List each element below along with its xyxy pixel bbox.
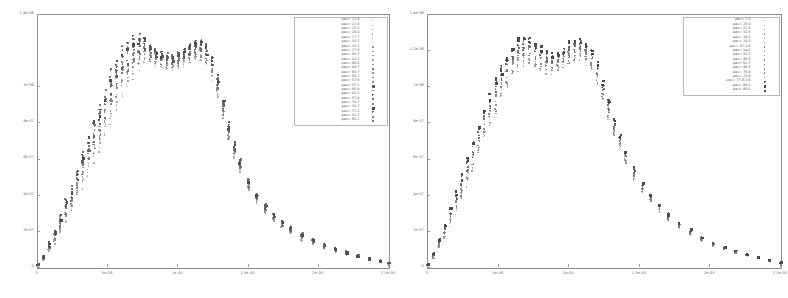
legend-marker-stroke bbox=[472, 156, 473, 158]
data-point bbox=[234, 143, 236, 145]
data-point bbox=[633, 166, 635, 168]
legend-marker-stroke bbox=[490, 122, 491, 124]
data-point bbox=[144, 48, 146, 50]
data-point bbox=[194, 41, 196, 43]
data-point bbox=[127, 52, 129, 54]
data-point bbox=[650, 194, 652, 196]
data-point bbox=[387, 262, 389, 264]
data-point bbox=[116, 87, 117, 88]
legend-marker-stroke bbox=[60, 227, 61, 229]
legend-marker-stroke bbox=[82, 173, 83, 175]
legend-marker-stroke bbox=[650, 197, 651, 199]
legend-marker-glyph bbox=[764, 90, 766, 92]
legend-marker-stroke bbox=[574, 59, 575, 61]
legend-marker-stroke bbox=[70, 203, 71, 205]
data-point bbox=[450, 215, 452, 217]
legend-marker-stroke bbox=[517, 65, 518, 67]
legend-marker-stroke bbox=[155, 61, 156, 63]
data-point bbox=[495, 88, 497, 90]
data-point bbox=[522, 49, 524, 51]
data-point bbox=[433, 252, 435, 254]
data-point bbox=[133, 66, 134, 67]
data-point bbox=[240, 166, 242, 168]
data-point bbox=[122, 63, 124, 65]
data-point bbox=[160, 64, 161, 65]
legend-item[interactable]: pav= 90.2 bbox=[295, 118, 387, 122]
legend-marker-stroke bbox=[116, 66, 117, 68]
data-point bbox=[478, 126, 480, 128]
legend-marker-stroke bbox=[201, 48, 202, 50]
data-point bbox=[178, 57, 180, 59]
legend-marker-stroke bbox=[66, 202, 67, 204]
data-point bbox=[109, 124, 110, 125]
data-point bbox=[116, 104, 117, 105]
data-point bbox=[138, 51, 140, 53]
legend-marker-stroke bbox=[177, 63, 178, 65]
data-point bbox=[539, 54, 541, 56]
legend-marker-stroke bbox=[105, 98, 106, 100]
data-point bbox=[456, 210, 457, 211]
data-point bbox=[574, 61, 575, 62]
data-point bbox=[506, 60, 508, 62]
data-point bbox=[99, 136, 100, 137]
legend-marker-stroke bbox=[93, 144, 94, 146]
data-point bbox=[110, 103, 111, 104]
data-point bbox=[624, 151, 626, 153]
data-point bbox=[507, 83, 508, 84]
data-point bbox=[211, 63, 213, 65]
legend-marker-stroke bbox=[563, 60, 564, 62]
data-point bbox=[528, 41, 531, 44]
data-point bbox=[122, 49, 124, 51]
data-point bbox=[82, 151, 84, 153]
legend-item[interactable]: pav= 90.0 bbox=[684, 88, 779, 92]
legend-marker-stroke bbox=[569, 46, 570, 48]
data-point bbox=[88, 142, 90, 144]
data-point bbox=[99, 115, 102, 118]
data-point bbox=[94, 142, 96, 144]
legend-marker-stroke bbox=[195, 48, 196, 50]
data-point bbox=[432, 257, 433, 258]
data-point bbox=[517, 55, 519, 57]
data-point bbox=[64, 212, 66, 214]
data-point bbox=[534, 66, 535, 67]
data-point bbox=[93, 156, 94, 157]
data-point bbox=[126, 60, 128, 62]
data-point bbox=[591, 53, 594, 56]
data-point bbox=[87, 169, 88, 170]
data-point bbox=[76, 182, 78, 184]
data-point bbox=[150, 56, 152, 58]
data-point bbox=[511, 73, 512, 74]
data-point bbox=[99, 130, 101, 132]
data-point bbox=[155, 56, 157, 58]
chart-panel-left: 02e-074e-076e-078e-071e-061.4e-0605e-061… bbox=[0, 0, 394, 298]
legend-marker-stroke bbox=[144, 40, 145, 42]
data-point bbox=[115, 96, 116, 97]
data-point bbox=[619, 136, 622, 139]
legend-marker-stroke bbox=[71, 191, 72, 193]
data-point bbox=[517, 51, 519, 53]
data-point bbox=[110, 113, 111, 114]
data-point bbox=[511, 48, 513, 50]
data-point bbox=[82, 157, 84, 159]
data-point bbox=[580, 42, 583, 45]
data-point bbox=[500, 69, 502, 71]
legend-marker-stroke bbox=[546, 53, 547, 55]
data-point bbox=[248, 186, 250, 188]
data-point bbox=[289, 229, 291, 231]
data-point bbox=[523, 63, 524, 64]
data-point bbox=[579, 59, 580, 60]
chart-panel-right: 02e-074e-076e-078e-071e-061.2e-061.4e-06… bbox=[394, 0, 788, 298]
legend-marker-stroke bbox=[483, 131, 484, 133]
data-point bbox=[248, 189, 249, 190]
data-point bbox=[138, 63, 139, 64]
data-point bbox=[523, 56, 524, 57]
legend-marker-glyph bbox=[372, 38, 373, 39]
legend-marker-stroke bbox=[149, 50, 150, 52]
data-point bbox=[466, 157, 468, 159]
legend-marker-stroke bbox=[501, 65, 502, 67]
data-point bbox=[495, 77, 497, 79]
data-point bbox=[128, 66, 130, 68]
data-point bbox=[466, 186, 467, 187]
data-point bbox=[55, 233, 58, 236]
data-point bbox=[449, 207, 451, 209]
